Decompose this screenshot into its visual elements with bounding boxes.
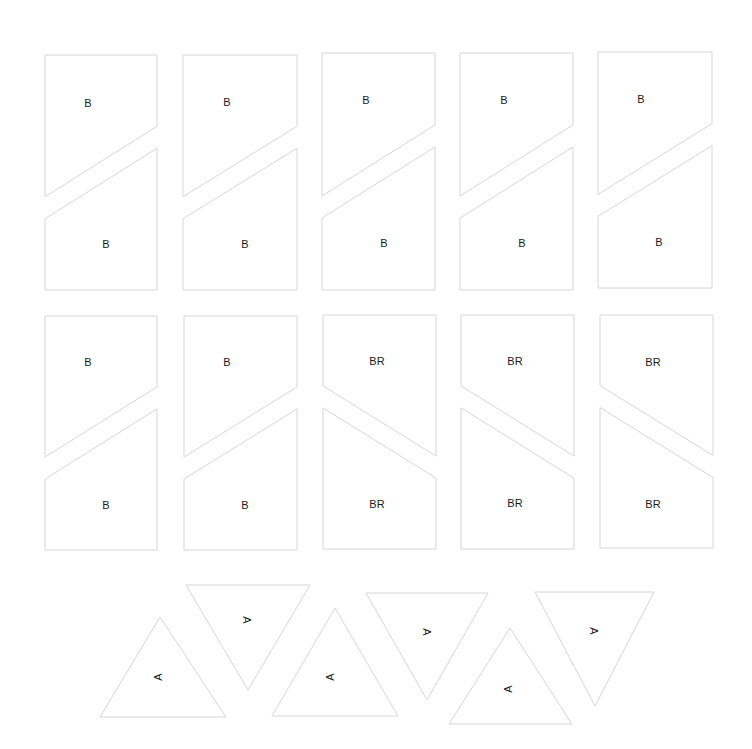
triangle-piece-down xyxy=(535,592,654,706)
triangle-pieces-layer xyxy=(100,585,654,724)
triangle-piece-up xyxy=(100,617,226,717)
triangle-piece-up xyxy=(272,608,398,716)
triangle-piece-down xyxy=(186,585,310,690)
triangle-piece-down xyxy=(366,593,488,700)
rectangle-pieces-layer xyxy=(45,52,713,550)
pattern-sheet xyxy=(0,0,752,749)
triangle-piece-up xyxy=(449,628,572,724)
